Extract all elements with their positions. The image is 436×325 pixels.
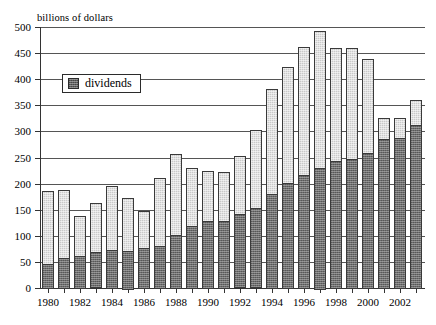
y-tick-label: 200 xyxy=(0,179,31,190)
bar-segment-dividends xyxy=(170,235,182,289)
x-tick-label: 1984 xyxy=(95,297,129,308)
bar-segment-other xyxy=(346,48,358,160)
bar-stack xyxy=(250,130,262,289)
y-axis-title: billions of dollars xyxy=(37,12,113,24)
x-tick-label: 1998 xyxy=(319,297,353,308)
bar-stack xyxy=(410,100,422,289)
bar-stack xyxy=(186,168,198,289)
x-tick-mark xyxy=(272,289,273,293)
legend-swatch-icon xyxy=(68,78,79,89)
x-tick-mark xyxy=(416,289,417,293)
bar-stack xyxy=(138,211,150,289)
bar-segment-other xyxy=(378,118,390,140)
y-tick-label: 0 xyxy=(0,283,31,294)
bar-segment-dividends xyxy=(90,252,102,288)
bar-segment-other xyxy=(410,100,422,126)
bar-segment-dividends xyxy=(234,214,246,288)
bar-segment-dividends xyxy=(58,258,70,289)
bar-segment-other xyxy=(330,48,342,162)
y-axis-line xyxy=(40,27,41,289)
bar-segment-other xyxy=(394,118,406,139)
bar-segment-other xyxy=(170,154,182,236)
bar-stack xyxy=(42,191,54,289)
x-tick-mark xyxy=(384,289,385,293)
bar-segment-other xyxy=(58,190,70,259)
x-tick-label: 1980 xyxy=(31,297,65,308)
bar-segment-dividends xyxy=(362,153,374,289)
bar-segment-other xyxy=(106,186,118,251)
x-tick-mark xyxy=(304,289,305,293)
y-tick-label: 450 xyxy=(0,48,31,59)
bar-stack xyxy=(74,216,86,289)
bar-segment-dividends xyxy=(346,159,358,289)
x-tick-mark xyxy=(144,289,145,293)
x-tick-mark xyxy=(320,289,321,293)
x-tick-mark xyxy=(48,289,49,293)
bar-segment-other xyxy=(234,156,246,215)
chart-container: billions of dollars 05010015020025030035… xyxy=(0,0,436,325)
y-tick-label: 250 xyxy=(0,153,31,164)
x-tick-mark xyxy=(400,289,401,293)
bar-stack xyxy=(346,48,358,289)
y-tick-label: 400 xyxy=(0,74,31,85)
bar-segment-dividends xyxy=(282,183,294,289)
y-tick-label: 500 xyxy=(0,22,31,33)
x-tick-mark xyxy=(192,289,193,293)
chart-legend: dividends xyxy=(62,74,141,93)
bar-stack xyxy=(282,67,294,289)
bar-segment-other xyxy=(282,67,294,184)
x-tick-label: 2000 xyxy=(351,297,385,308)
x-tick-label: 1990 xyxy=(191,297,225,308)
x-tick-label: 1982 xyxy=(63,297,97,308)
x-tick-label: 1992 xyxy=(223,297,257,308)
bar-segment-other xyxy=(138,211,150,249)
bar-segment-dividends xyxy=(378,139,390,289)
bar-segment-dividends xyxy=(138,248,150,289)
x-tick-mark xyxy=(128,289,129,293)
y-tick-label: 300 xyxy=(0,126,31,137)
bar-segment-dividends xyxy=(202,221,214,289)
x-tick-mark xyxy=(336,289,337,293)
y-tick-label: 350 xyxy=(0,100,31,111)
bar-segment-dividends xyxy=(218,221,230,289)
bar-segment-dividends xyxy=(298,175,310,289)
bar-stack xyxy=(330,48,342,289)
bar-stack xyxy=(58,190,70,289)
y-tick-label: 50 xyxy=(0,257,31,268)
bar-segment-dividends xyxy=(186,226,198,289)
x-tick-label: 1988 xyxy=(159,297,193,308)
bar-segment-dividends xyxy=(154,246,166,289)
bar-stack xyxy=(90,203,102,289)
bar-stack xyxy=(298,47,310,289)
x-tick-mark xyxy=(64,289,65,293)
bar-segment-dividends xyxy=(106,250,118,289)
bar-segment-other xyxy=(266,89,278,195)
bar-segment-other xyxy=(218,172,230,222)
x-tick-mark xyxy=(176,289,177,293)
x-tick-label: 1986 xyxy=(127,297,161,308)
bar-segment-dividends xyxy=(122,251,134,290)
x-tick-label: 2002 xyxy=(383,297,417,308)
x-tick-mark xyxy=(80,289,81,293)
x-tick-mark xyxy=(224,289,225,293)
bar-stack xyxy=(266,89,278,289)
bar-segment-other xyxy=(250,130,262,209)
x-tick-mark xyxy=(240,289,241,293)
bar-stack xyxy=(234,156,246,289)
x-tick-mark xyxy=(112,289,113,293)
bar-stack xyxy=(314,31,326,289)
legend-label: dividends xyxy=(85,77,132,90)
bar-segment-dividends xyxy=(266,194,278,289)
y-tick-label: 100 xyxy=(0,231,31,242)
bar-segment-other xyxy=(74,216,86,257)
bar-stack xyxy=(154,178,166,289)
bar-segment-other xyxy=(42,191,54,265)
bar-segment-dividends xyxy=(314,168,326,290)
bar-segment-other xyxy=(186,168,198,227)
x-tick-mark xyxy=(288,289,289,293)
y-tick-label: 150 xyxy=(0,205,31,216)
bar-stack xyxy=(378,118,390,289)
bar-segment-other xyxy=(298,47,310,176)
bar-segment-dividends xyxy=(330,161,342,289)
x-tick-mark xyxy=(208,289,209,293)
